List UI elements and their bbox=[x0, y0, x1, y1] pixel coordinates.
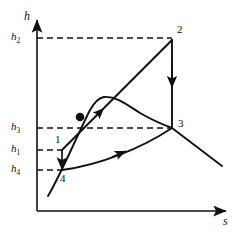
tick-label-h2-sub: 2 bbox=[17, 36, 21, 45]
state-label-4: 4 bbox=[60, 173, 66, 184]
saturation-dome-left-branch bbox=[48, 97, 104, 196]
process-line-1-2 bbox=[62, 40, 172, 150]
filled-dot-marker bbox=[76, 113, 85, 122]
hs-diagram-figure: h s h2 h3 h1 h4 1 2 3 4 bbox=[0, 0, 241, 236]
tick-label-h1: h1 bbox=[11, 143, 20, 157]
tick-label-h3: h3 bbox=[11, 121, 20, 135]
state-label-1: 1 bbox=[55, 134, 61, 145]
state-label-2: 2 bbox=[177, 24, 183, 35]
tick-label-h4-sub: 4 bbox=[17, 168, 21, 177]
tick-label-h1-sub: 1 bbox=[17, 148, 21, 157]
s-axis-label: s bbox=[223, 215, 228, 227]
tick-label-h2: h2 bbox=[11, 31, 20, 45]
tick-label-h4: h4 bbox=[11, 163, 20, 177]
state-label-3: 3 bbox=[178, 118, 184, 129]
h-axis-label: h bbox=[24, 10, 30, 22]
tick-label-h3-sub: 3 bbox=[17, 126, 21, 135]
diagram-canvas bbox=[0, 0, 241, 236]
process-arrow-1-2 bbox=[96, 108, 104, 116]
saturation-dome-right-branch bbox=[104, 97, 172, 128]
isobar-right-tail bbox=[172, 128, 222, 166]
